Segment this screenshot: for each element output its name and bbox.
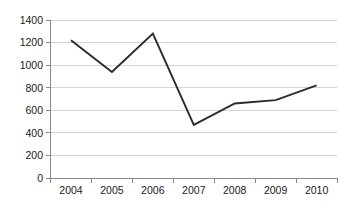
chart-canvas: 1400 1200 1000 800 600 400 200 0 2004 20… bbox=[0, 0, 347, 204]
y-tick-label-1200: 1200 bbox=[20, 36, 44, 48]
x-tick-label-2005: 2005 bbox=[100, 184, 124, 196]
x-tick-label-2009: 2009 bbox=[264, 184, 288, 196]
x-tick-label-2004: 2004 bbox=[59, 184, 83, 196]
y-tick-label-600: 600 bbox=[25, 104, 43, 116]
x-tick-label-2010: 2010 bbox=[305, 184, 329, 196]
y-tick-label-0: 0 bbox=[37, 172, 43, 184]
x-tick-label-2006: 2006 bbox=[141, 184, 165, 196]
line-chart: 1400 1200 1000 800 600 400 200 0 2004 20… bbox=[0, 0, 347, 204]
y-tick-label-200: 200 bbox=[25, 149, 43, 161]
y-tick-label-1400: 1400 bbox=[20, 14, 44, 26]
y-tick-label-1000: 1000 bbox=[20, 59, 44, 71]
y-tick-label-800: 800 bbox=[25, 82, 43, 94]
y-tick-label-400: 400 bbox=[25, 127, 43, 139]
x-tick-label-2007: 2007 bbox=[182, 184, 206, 196]
x-tick-label-2008: 2008 bbox=[223, 184, 247, 196]
chart-background bbox=[0, 0, 347, 204]
